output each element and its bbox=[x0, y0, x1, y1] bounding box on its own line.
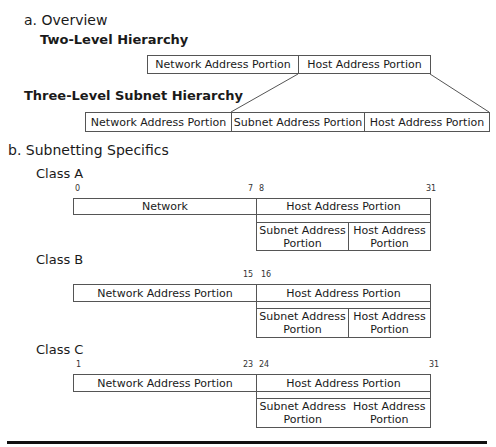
class-a-host-cell: Host Address Portion bbox=[256, 198, 431, 215]
expansion-line-right bbox=[430, 74, 489, 112]
class-c-host-sub-cell: Host Address Portion bbox=[349, 400, 429, 426]
class-c-bit-start: 1 bbox=[76, 360, 81, 369]
class-a-network-cell: Network bbox=[73, 198, 257, 215]
class-b-network-cell: Network Address Portion bbox=[73, 284, 257, 302]
three-level-network-cell: Network Address Portion bbox=[85, 112, 232, 132]
three-level-title: Three-Level Subnet Hierarchy bbox=[24, 88, 243, 103]
class-c-label: Class C bbox=[36, 342, 83, 357]
class-b-host-sub-cell: Host Address Portion bbox=[348, 308, 431, 338]
class-a-bit-start: 0 bbox=[75, 184, 80, 193]
class-b-host-cell: Host Address Portion bbox=[256, 284, 431, 302]
bottom-rule bbox=[7, 441, 487, 444]
class-c-host-cell: Host Address Portion bbox=[256, 374, 431, 392]
class-a-bit-end: 31 bbox=[426, 184, 436, 193]
class-c-subnet-cell: Subnet Address Portion bbox=[258, 400, 348, 426]
class-c-bit-host-start: 24 bbox=[259, 360, 269, 369]
specifics-heading: b. Subnetting Specifics bbox=[8, 142, 169, 158]
class-a-bit-net-end: 7 bbox=[248, 184, 253, 193]
class-b-subnet-cell: Subnet Address Portion bbox=[256, 308, 349, 338]
three-level-subnet-cell: Subnet Address Portion bbox=[231, 112, 365, 132]
class-a-subnet-cell: Subnet Address Portion bbox=[256, 222, 349, 251]
class-c-bit-end: 31 bbox=[429, 360, 439, 369]
class-a-label: Class A bbox=[36, 166, 83, 181]
class-c-bit-net-end: 23 bbox=[243, 360, 253, 369]
three-level-host-cell: Host Address Portion bbox=[364, 112, 490, 132]
class-b-bit-net-end: 15 bbox=[243, 270, 253, 279]
class-a-host-sub-cell: Host Address Portion bbox=[348, 222, 431, 251]
class-b-bit-host-start: 16 bbox=[261, 270, 271, 279]
class-c-network-cell: Network Address Portion bbox=[73, 374, 257, 392]
class-a-bit-host-start: 8 bbox=[259, 184, 264, 193]
class-c-lower-cell: Subnet Address Portion Host Address Port… bbox=[256, 398, 431, 428]
class-b-label: Class B bbox=[36, 252, 83, 267]
